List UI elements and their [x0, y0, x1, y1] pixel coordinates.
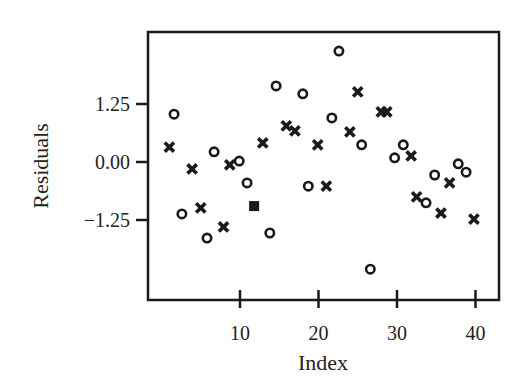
circle-marker: [399, 141, 407, 149]
square-marker: [249, 201, 259, 211]
cross-marker: [219, 222, 228, 231]
residuals-scatter-chart: 1.250.00−1.25 10203040 Index Residuals: [0, 0, 528, 389]
circle-marker: [462, 168, 470, 176]
x-axis-title: Index: [298, 350, 348, 375]
cross-marker: [258, 138, 267, 147]
circle-marker: [299, 90, 307, 98]
cross-marker: [225, 160, 234, 169]
x-tick-label: 30: [387, 322, 407, 344]
circle-marker: [235, 157, 243, 165]
circle-marker: [210, 148, 218, 156]
x-tick-label: 20: [309, 322, 329, 344]
circle-marker: [203, 234, 211, 242]
circle-marker: [357, 141, 365, 149]
y-axis-ticks: 1.250.00−1.25: [84, 93, 149, 231]
circle-marker: [304, 182, 312, 190]
plot-frame: [148, 32, 499, 300]
circle-marker: [243, 179, 251, 187]
circle-marker: [422, 199, 430, 207]
cross-marker: [436, 208, 445, 217]
cross-marker: [282, 121, 291, 130]
y-axis-title: Residuals: [28, 123, 53, 209]
cross-marker: [322, 182, 331, 191]
y-tick-label: −1.25: [84, 209, 130, 231]
cross-marker: [469, 214, 478, 223]
cross-marker: [165, 143, 174, 152]
cross-marker: [345, 127, 354, 136]
cross-marker: [313, 140, 322, 149]
chart-canvas: 1.250.00−1.25 10203040 Index Residuals: [0, 0, 528, 389]
cross-marker: [445, 178, 454, 187]
circle-marker: [454, 160, 462, 168]
y-tick-label: 0.00: [95, 151, 130, 173]
y-tick-label: 1.25: [95, 93, 130, 115]
x-tick-label: 10: [230, 322, 250, 344]
circle-marker: [266, 229, 274, 237]
circle-marker: [430, 171, 438, 179]
circle-marker: [170, 110, 178, 118]
cross-marker: [188, 164, 197, 173]
circle-marker: [272, 82, 280, 90]
circle-marker: [328, 114, 336, 122]
cross-marker: [196, 203, 205, 212]
x-tick-label: 40: [466, 322, 486, 344]
cross-marker: [412, 192, 421, 201]
circle-marker: [366, 265, 374, 273]
circle-marker: [335, 47, 343, 55]
cross-marker: [353, 87, 362, 96]
x-axis-ticks: 10203040: [230, 290, 486, 344]
circle-marker: [178, 210, 186, 218]
cross-marker: [407, 151, 416, 160]
data-points: [165, 47, 479, 273]
circle-marker: [390, 154, 398, 162]
cross-marker: [290, 126, 299, 135]
